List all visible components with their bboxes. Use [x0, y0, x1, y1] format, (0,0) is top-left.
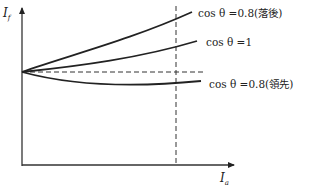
y-axis-label: If [2, 6, 12, 22]
x-axis-label: Ia [219, 171, 229, 187]
curve-label-leading: cos θ =0.8(領先) [209, 78, 293, 90]
curve-unity [22, 41, 197, 72]
curve-leading [22, 72, 201, 85]
curve-label-lagging: cos θ =0.8(落後) [198, 7, 282, 19]
field-current-diagram: If Ia cos θ =0.8(落後) cos θ =1 cos θ =0.8… [0, 0, 311, 189]
curve-label-unity: cos θ =1 [206, 36, 252, 48]
curve-lagging [22, 12, 192, 72]
